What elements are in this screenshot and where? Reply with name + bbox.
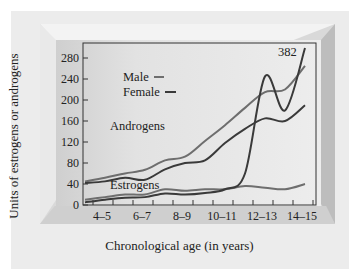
legend-female-label: Female [123, 85, 160, 99]
x-tick-label: 12–13 [247, 209, 277, 223]
x-axis-label: Chronological age (in years) [0, 238, 359, 254]
legend-male-label: Male [123, 70, 149, 84]
y-tick-label: 240 [61, 72, 79, 86]
y-axis-label: Units of estrogens or androgens [6, 36, 22, 236]
y-tick-label: 120 [61, 135, 79, 149]
x-tick-label: 10–11 [207, 209, 237, 223]
estrogens-label: Estrogens [110, 178, 159, 192]
y-tick-label: 160 [61, 114, 79, 128]
x-tick-label: 14–15 [287, 209, 317, 223]
peak-value-label: 382 [278, 45, 297, 59]
x-tick-label: 8–9 [173, 209, 191, 223]
series-female-androgens [85, 105, 305, 183]
y-tick-label: 80 [67, 156, 79, 170]
y-tick-label: 200 [61, 93, 79, 107]
x-tick-label: 4–5 [93, 209, 111, 223]
axes: 040801201602002402804–56–78–910–1112–131… [61, 43, 317, 223]
y-tick-label: 280 [61, 51, 79, 65]
y-tick-label: 40 [67, 177, 79, 191]
x-tick-label: 6–7 [133, 209, 151, 223]
y-tick-label: 0 [73, 198, 79, 212]
androgens-label: Androgens [110, 119, 165, 133]
